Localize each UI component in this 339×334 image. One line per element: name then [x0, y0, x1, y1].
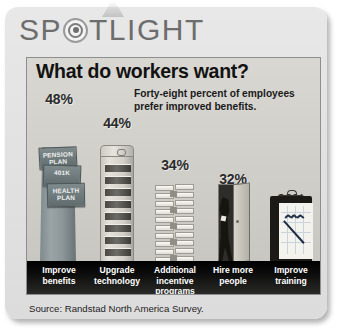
cash-stacks — [155, 179, 195, 263]
category-label-1-line2: benefits — [43, 276, 76, 286]
category-label-5-line2: training — [275, 276, 307, 286]
bar-hire-more-people: 32% — [207, 139, 259, 263]
bar-value-1: 48% — [33, 91, 85, 107]
server-rack-icon — [91, 143, 143, 263]
bar-value-2: 44% — [91, 115, 143, 131]
clipboard-body-shape — [270, 196, 312, 263]
category-label-4-line2: people — [219, 276, 247, 286]
category-label-2-line2: technology — [94, 276, 140, 286]
infographic-root: SP TLIGHT What do workers want? Forty-ei… — [0, 0, 339, 334]
rack-body — [100, 156, 134, 263]
source-note: Source: Randstad North America Survey. — [29, 303, 204, 314]
category-label-5-line1: Improve — [274, 265, 307, 275]
person-collar-shape — [221, 216, 227, 222]
category-label-3-line1: Additional — [154, 265, 196, 275]
bar-additional-incentive-programs: 34% — [149, 131, 201, 263]
masthead-wordmark: SP TLIGHT — [19, 15, 205, 45]
category-label-4-line1: Hire more — [213, 265, 253, 275]
door-knob-icon — [236, 220, 239, 223]
category-label-5: Improve training — [263, 265, 319, 286]
bar-improve-benefits: 48% PENSION PLAN 401K HEALTH PLAN — [33, 91, 85, 263]
spotlight-card: SP TLIGHT What do workers want? Forty-ei… — [5, 7, 327, 319]
clipboard-paper — [279, 203, 313, 259]
spotlight-target-icon — [63, 18, 88, 43]
category-label-2-line1: Upgrade — [100, 265, 135, 275]
masthead-prefix: SP — [19, 15, 62, 45]
category-label-1-line1: Improve — [42, 265, 75, 275]
bar-improve-training: 28% — [265, 151, 317, 263]
category-label-4: Hire more people — [205, 265, 261, 286]
category-label-2: Upgrade technology — [89, 265, 145, 286]
clipboard-chart-icon — [265, 189, 317, 263]
masthead: SP TLIGHT — [19, 9, 205, 51]
category-label-3-line3: programs — [155, 286, 195, 295]
person-doorway-icon — [207, 179, 259, 263]
category-label-3-line2: incentive — [156, 276, 193, 286]
cash-stack-icon — [149, 171, 201, 263]
bars-area: 48% PENSION PLAN 401K HEALTH PLAN 44% — [27, 58, 321, 263]
chart-panel: What do workers want? Forty-eight percen… — [26, 57, 321, 295]
benefit-folders-icon: PENSION PLAN 401K HEALTH PLAN — [33, 123, 85, 263]
rack-handle — [100, 145, 134, 156]
masthead-suffix: TLIGHT — [89, 15, 205, 45]
category-label-1: Improve benefits — [31, 265, 87, 286]
spotlight-beam-icon — [102, 1, 124, 17]
bar-upgrade-technology: 44% — [91, 103, 143, 263]
category-label-band: Improve benefits Upgrade technology Addi… — [27, 261, 321, 294]
folder-health-plan: HEALTH PLAN — [47, 183, 85, 208]
category-label-3: Additional incentive programs — [147, 265, 203, 295]
open-door-shape — [233, 183, 250, 263]
